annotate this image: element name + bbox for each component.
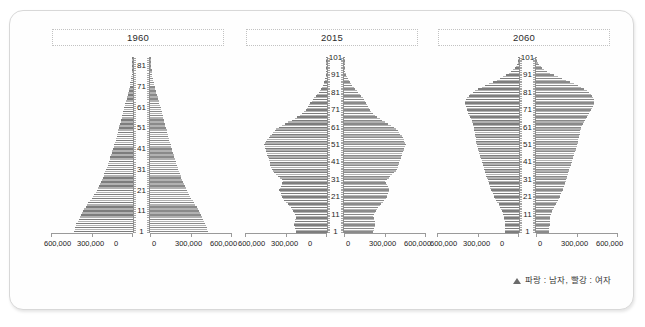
age-tick	[328, 171, 330, 172]
age-bar	[344, 181, 385, 182]
age-bar	[295, 219, 327, 220]
age-tick	[134, 220, 136, 221]
age-bar	[125, 103, 133, 105]
age-tick	[147, 114, 149, 115]
age-tick	[520, 65, 522, 66]
age-tick	[328, 121, 330, 122]
age-tick	[147, 139, 149, 140]
age-bar	[536, 76, 558, 77]
age-bar	[86, 206, 133, 208]
age-bar	[102, 179, 133, 181]
age-bar	[310, 102, 327, 103]
age-tick	[328, 187, 330, 188]
age-bar	[283, 198, 327, 199]
age-bar	[536, 137, 579, 138]
age-bar	[536, 118, 586, 119]
age-bar	[344, 158, 401, 159]
age-tick	[520, 169, 522, 170]
age-bar	[266, 141, 327, 142]
age-bar	[288, 203, 327, 204]
age-bar	[344, 216, 373, 217]
age-bar	[476, 139, 519, 140]
age-tick	[134, 195, 136, 196]
age-tick	[147, 155, 149, 156]
age-bar	[150, 94, 157, 96]
age-bar	[476, 137, 519, 138]
age-tick	[341, 100, 343, 101]
age-tick	[533, 103, 535, 104]
age-bar	[100, 183, 133, 185]
age-bar	[150, 107, 161, 109]
age-bar	[344, 59, 345, 60]
age-tick	[134, 102, 136, 103]
age-bar	[344, 130, 398, 131]
age-bar	[150, 76, 152, 78]
age-bar	[99, 185, 133, 187]
age-bar	[150, 119, 164, 121]
age-bar	[283, 181, 327, 182]
age-tick	[520, 203, 522, 204]
age-bar	[478, 148, 519, 149]
age-axis-label: 41	[133, 145, 150, 153]
age-tick	[134, 174, 136, 175]
age-bar	[269, 158, 327, 159]
age-bar	[490, 188, 519, 189]
age-bar	[150, 80, 153, 82]
value-tick	[191, 233, 192, 237]
age-axis-label: 21	[327, 193, 344, 201]
age-tick	[328, 136, 330, 137]
age-bar	[108, 165, 133, 167]
age-bar	[150, 163, 176, 165]
age-bar	[150, 134, 168, 136]
age-bar	[124, 109, 133, 111]
age-bar	[296, 217, 327, 218]
age-bar	[536, 111, 590, 112]
age-tick	[147, 226, 149, 227]
age-bar	[486, 176, 519, 177]
age-bar	[150, 88, 155, 90]
age-bar	[536, 160, 572, 161]
age-bar	[97, 190, 133, 192]
age-bar	[536, 184, 565, 185]
age-tick	[328, 169, 330, 170]
age-tick	[134, 112, 136, 113]
age-tick	[520, 154, 522, 155]
age-bar	[316, 95, 327, 96]
age-bar	[293, 210, 327, 211]
age-bar	[288, 121, 327, 122]
age-bar	[265, 146, 327, 147]
age-bar	[119, 127, 133, 129]
age-tick	[341, 223, 343, 224]
age-bar	[497, 80, 519, 81]
value-tick	[51, 233, 52, 237]
age-bar	[90, 200, 133, 202]
age-bar	[344, 160, 400, 161]
age-bar	[536, 217, 550, 218]
chart-title-1960: 1960	[53, 30, 223, 45]
age-bar	[536, 115, 588, 116]
age-bar	[499, 205, 519, 206]
value-axis-label: 600,000	[238, 239, 265, 249]
age-tick	[147, 184, 149, 185]
age-bar	[292, 209, 327, 210]
age-bar	[536, 67, 542, 68]
age-axis-1960: 11121314151617181	[133, 57, 150, 233]
age-bar	[150, 181, 183, 183]
age-tick	[533, 138, 535, 139]
age-tick	[533, 100, 535, 101]
age-bar	[110, 156, 133, 158]
age-bar	[503, 76, 519, 77]
age-bar	[475, 90, 519, 91]
age-tick	[328, 223, 330, 224]
age-tick	[147, 141, 149, 142]
age-bar	[344, 214, 374, 215]
age-bar	[536, 125, 582, 126]
age-bar	[536, 193, 561, 194]
age-bar	[344, 109, 370, 110]
age-tick	[147, 159, 149, 160]
age-bar	[344, 174, 392, 175]
age-bar	[491, 189, 519, 190]
age-tick	[134, 135, 136, 136]
age-bar	[150, 185, 185, 187]
age-bar	[344, 69, 345, 70]
